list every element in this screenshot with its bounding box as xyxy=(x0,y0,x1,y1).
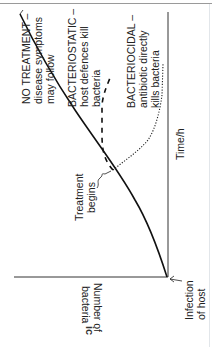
treatment-label-line-1: Treatment xyxy=(73,174,85,221)
origin-label-line-2: of host xyxy=(195,280,207,320)
no-treatment-label-line-3: may follow xyxy=(44,14,56,104)
bacteriocidal-label-line-1: BACTERIOCIDAL – xyxy=(125,15,137,108)
treatment-label-line-2: begins xyxy=(85,174,97,221)
y-axis-label-line-2: bacteria xyxy=(80,283,92,332)
x-axis-label: Time/h xyxy=(174,128,186,160)
infection-arrow-icon xyxy=(170,276,182,282)
origin-label-line-1: Infection xyxy=(183,280,195,320)
bacteriocidal-label: BACTERIOCIDAL – antibiotic directly kill… xyxy=(125,15,161,108)
bacteriostatic-label-line-1: BACTERIOSTATIC – xyxy=(66,9,78,107)
origin-label: Infection of host xyxy=(183,280,207,320)
bacteriostatic-label: BACTERIOSTATIC – host defences kill bact… xyxy=(66,9,102,107)
y-axis-label-line-1: Number of xyxy=(92,283,104,332)
x-axis-label-text: Time/h xyxy=(174,128,186,160)
bacteriostatic-label-line-2: host defences kill xyxy=(78,9,90,107)
treatment-pointer-icon xyxy=(97,171,111,188)
bacteriocidal-label-line-3: kills bacteria xyxy=(149,15,161,108)
no-treatment-label: NO TREATMENT – disease symptoms may foll… xyxy=(20,14,56,104)
y-axis-label: Number of bacteria xyxy=(80,283,104,332)
no-treatment-label-line-1: NO TREATMENT – xyxy=(20,14,32,104)
bacteriocidal-label-line-2: antibiotic directly xyxy=(137,15,149,108)
bacteriostatic-label-line-3: bacteria xyxy=(90,9,102,107)
treatment-begins-label: Treatment begins xyxy=(73,174,97,221)
cut-off-text: ic xyxy=(84,326,96,335)
no-treatment-label-line-2: disease symptoms xyxy=(32,14,44,104)
